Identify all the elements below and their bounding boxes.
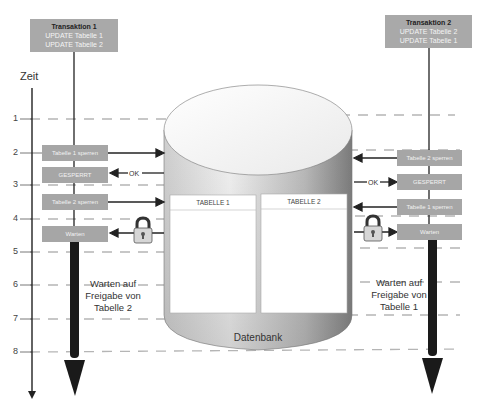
- t1-ok-label: OK: [129, 168, 139, 180]
- transaction-2-box: Transaktion 2 UPDATE Tabelle 2 UPDATE Ta…: [385, 15, 472, 48]
- padlock-icon-left: [134, 218, 152, 243]
- tick-8: 8: [13, 346, 18, 356]
- t1-wait-caption: Warten auf Freigabe von Tabelle 2: [82, 278, 144, 314]
- t2-wait-caption: Warten auf Freigabe von Tabelle 1: [366, 277, 432, 313]
- transaction-1-box: Transaktion 1 UPDATE Tabelle 1 UPDATE Ta…: [30, 19, 118, 52]
- t2-wait-caption-line-2: Freigabe von: [366, 289, 432, 301]
- t2-step-locked: GESPERRT: [397, 174, 462, 190]
- tick-1: 1: [13, 113, 18, 123]
- tick-6: 6: [13, 279, 18, 289]
- t2-step-lock-table-1: Tabelle 1 sperren: [397, 199, 462, 215]
- t1-step-wait: Warten: [42, 226, 108, 242]
- t2-step-lock-table-2: Tabelle 2 sperren: [397, 150, 462, 166]
- t1-step-locked: GESPERRT: [42, 167, 108, 183]
- tick-7: 7: [13, 313, 18, 323]
- t1-wait-caption-line-3: Tabelle 2: [82, 302, 144, 314]
- transaction-2-line-1: UPDATE Tabelle 2: [385, 27, 472, 36]
- transaction-1-line-2: UPDATE Tabelle 2: [30, 40, 118, 49]
- t1-wait-caption-line-1: Warten auf: [82, 278, 144, 290]
- database-cylinder: [164, 85, 352, 350]
- database-label: Datenbank: [228, 332, 288, 344]
- t2-wait-caption-line-1: Warten auf: [366, 277, 432, 289]
- tick-3: 3: [13, 179, 18, 189]
- tick-4: 4: [13, 213, 18, 223]
- t2-ok-label: OK: [368, 177, 378, 189]
- wait-arrow-left: [64, 238, 85, 396]
- time-axis-title: Zeit: [20, 70, 38, 82]
- t1-step-lock-table-1: Tabelle 1 sperren: [42, 145, 108, 161]
- transaction-1-title: Transaktion 1: [30, 22, 118, 31]
- table-1-header: TABELLE 1: [170, 199, 256, 206]
- t1-wait-caption-line-2: Freigabe von: [82, 290, 144, 302]
- tick-2: 2: [13, 147, 18, 157]
- tick-5: 5: [13, 246, 18, 256]
- transaction-2-line-2: UPDATE Tabelle 1: [385, 36, 472, 45]
- transaction-1-line-1: UPDATE Tabelle 1: [30, 31, 118, 40]
- t2-step-wait: Warten: [397, 224, 462, 240]
- transaction-2-title: Transaktion 2: [385, 18, 472, 27]
- t1-step-lock-table-2: Tabelle 2 sperren: [42, 194, 108, 210]
- padlock-icon-right: [364, 216, 382, 241]
- t2-wait-caption-line-3: Tabelle 1: [366, 301, 432, 313]
- table-2-header: TABELLE 2: [261, 198, 347, 205]
